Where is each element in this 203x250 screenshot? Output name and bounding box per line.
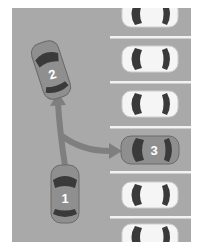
arrow-curved — [62, 136, 122, 159]
car-1-label: 1 — [61, 191, 68, 206]
car-1: 1 — [51, 165, 79, 223]
parked-car — [122, 91, 178, 117]
car-2: 2 — [29, 38, 74, 102]
parking-diagram: 3 1 2 — [12, 8, 191, 242]
parking-lot: 3 1 2 — [12, 8, 191, 242]
parked-car — [122, 8, 178, 27]
car-3-label: 3 — [150, 143, 157, 158]
car-3: 3 — [121, 136, 179, 164]
parked-car — [122, 224, 178, 242]
parked-car — [122, 46, 178, 72]
parked-car — [122, 182, 178, 208]
arrow-straight — [50, 92, 66, 166]
